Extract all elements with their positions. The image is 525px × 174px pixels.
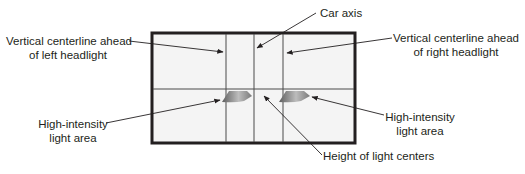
label-left-high-intensity-line2: light area xyxy=(38,131,108,145)
label-left-centerline-line1: Vertical centerline ahead xyxy=(6,34,130,48)
label-right-high-intensity-line2: light area xyxy=(385,124,455,138)
label-left-centerline: Vertical centerline ahead of left headli… xyxy=(6,34,130,62)
label-car-axis: Car axis xyxy=(320,6,362,20)
label-light-center-height: Height of light centers xyxy=(323,149,434,163)
label-light-center-height-text: Height of light centers xyxy=(323,150,434,162)
label-right-centerline-line1: Vertical centerline ahead xyxy=(392,31,520,45)
label-right-centerline-line2: of right headlight xyxy=(392,45,520,59)
label-car-axis-text: Car axis xyxy=(320,7,362,19)
label-right-high-intensity: High-intensity light area xyxy=(385,110,455,138)
label-right-centerline: Vertical centerline ahead of right headl… xyxy=(392,31,520,59)
label-left-centerline-line2: of left headlight xyxy=(6,48,130,62)
aiming-screen-diagram xyxy=(0,0,525,174)
label-left-high-intensity: High-intensity light area xyxy=(38,117,108,145)
label-left-high-intensity-line1: High-intensity xyxy=(38,117,108,131)
label-right-high-intensity-line1: High-intensity xyxy=(385,110,455,124)
